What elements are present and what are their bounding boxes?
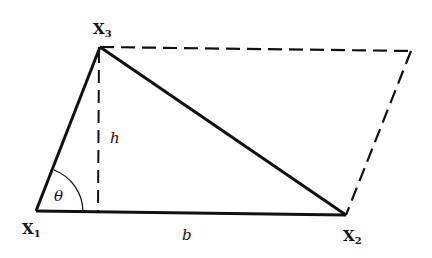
altitude-h: [98, 50, 99, 212]
base-label: b: [182, 228, 192, 243]
dashed-edge-x3-x4: [100, 47, 411, 51]
dashed-edge-x4-x2: [346, 51, 411, 215]
angle-label: θ: [54, 189, 63, 204]
diagram-canvas: X3 X1 X2 h b θ: [0, 0, 432, 258]
vertex-label-x1: X1: [22, 222, 41, 239]
height-label: h: [110, 131, 120, 146]
edge-x1-x3: [36, 47, 100, 211]
vertex-label-x2: X2: [343, 229, 362, 246]
vertex-label-x3: X3: [93, 22, 112, 39]
edge-x1-x2: [36, 211, 346, 215]
edge-x3-x2: [100, 47, 346, 215]
diagram-svg: [0, 0, 432, 258]
